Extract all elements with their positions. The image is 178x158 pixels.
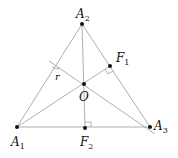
label-o: O: [79, 90, 89, 104]
label-f2: F2: [79, 135, 93, 151]
geometry-diagram: A2 F1 r O A3 A1 F2: [0, 0, 178, 158]
label-a3: A3: [153, 119, 168, 135]
point-a1: [15, 125, 19, 129]
segment-a2-f2: [82, 24, 85, 128]
interior-segments: [17, 24, 155, 134]
segment-a1-f1: [17, 66, 110, 127]
point-f1: [108, 64, 112, 68]
segment-radius-line: [49, 61, 155, 134]
label-f1: F1: [115, 51, 129, 67]
label-r: r: [55, 71, 61, 82]
label-a1: A1: [10, 135, 25, 151]
point-a3: [148, 125, 152, 129]
point-a2: [80, 22, 84, 26]
point-o: [82, 82, 86, 86]
side-a1-a2: [17, 24, 82, 127]
point-f2: [83, 126, 87, 130]
label-a2: A2: [75, 7, 90, 23]
side-a2-a3: [82, 24, 150, 127]
labels: A2 F1 r O A3 A1 F2: [10, 7, 168, 151]
